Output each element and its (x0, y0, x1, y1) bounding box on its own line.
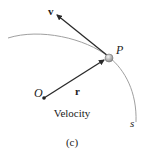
path-label: s (130, 117, 134, 129)
velocity-vector-arrow (57, 15, 108, 56)
origin-dot (42, 96, 46, 100)
velocity-vector-label: v (48, 5, 54, 17)
position-vector-arrow (44, 60, 104, 98)
origin-label: O (34, 86, 43, 100)
position-vector-label: r (75, 85, 80, 97)
velocity-diagram: v r P O s Velocity (c) (0, 0, 147, 157)
particle-ball (105, 54, 113, 62)
subfigure-label: (c) (66, 136, 79, 149)
caption-label: Velocity (54, 107, 91, 119)
point-label: P (115, 43, 124, 57)
